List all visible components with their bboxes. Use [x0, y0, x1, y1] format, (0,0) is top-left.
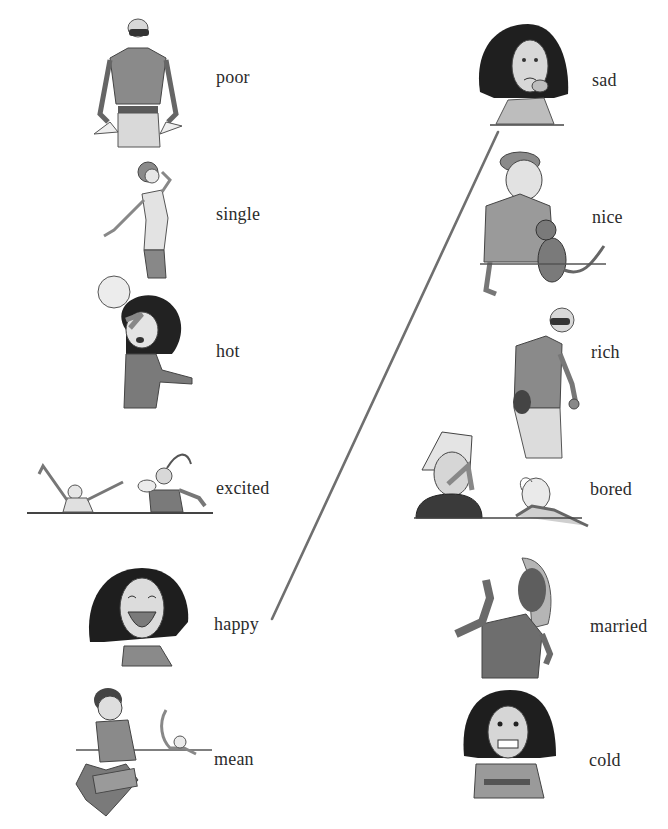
boy-petting-cat-icon: [480, 150, 610, 298]
girl-crying-icon: [474, 22, 574, 128]
woman-on-phone-icon: [100, 160, 200, 280]
woman-sun-sweating-icon: [96, 270, 196, 415]
word-label: bored: [590, 479, 632, 500]
woman-showing-ring-icon: [452, 554, 562, 680]
woman-laughing-icon: [84, 562, 194, 670]
word-label: cold: [589, 750, 621, 771]
man-wallet-keys-icon: [492, 304, 592, 436]
word-label: excited: [216, 478, 269, 499]
man-empty-pockets-icon: [88, 14, 188, 149]
word-label: hot: [216, 341, 240, 362]
word-label: sad: [592, 70, 617, 91]
word-label: rich: [591, 342, 620, 363]
word-label: mean: [214, 749, 254, 770]
two-kids-yawning-icon: [412, 430, 592, 530]
girl-shivering-icon: [460, 690, 560, 802]
word-label: single: [216, 204, 260, 225]
boy-smashing-box-icon: [66, 684, 216, 820]
word-label: nice: [592, 207, 623, 228]
two-kids-cheering-icon: [27, 440, 217, 518]
word-label: poor: [216, 67, 250, 88]
word-label: happy: [214, 614, 259, 635]
word-label: married: [590, 616, 647, 637]
